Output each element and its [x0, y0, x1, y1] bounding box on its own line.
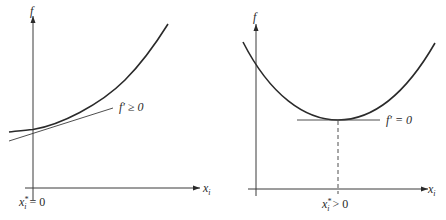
- right-y-axis-label: f: [253, 10, 258, 24]
- left-tangent-label: f′ ≥ 0: [119, 100, 144, 114]
- right-function-curve: [243, 42, 435, 120]
- right-tangent-label: f′ = 0: [386, 113, 412, 127]
- right-x-axis-label: xi: [427, 182, 436, 198]
- left-x-axis-label: xi: [202, 181, 211, 197]
- left-tangent-line: [9, 108, 113, 141]
- optimality-conditions-diagram: f xi f′ ≥ 0 x*i = 0 f xi f′ = 0 x*i > 0: [0, 0, 446, 220]
- right-minimum-label: x*i > 0: [321, 197, 348, 213]
- left-origin-label: x*i = 0: [18, 195, 45, 211]
- right-panel-interior-minimum: f xi f′ = 0 x*i > 0: [243, 10, 436, 213]
- left-y-axis-label: f: [30, 4, 35, 18]
- left-panel-boundary-minimum: f xi f′ ≥ 0 x*i = 0: [9, 4, 211, 211]
